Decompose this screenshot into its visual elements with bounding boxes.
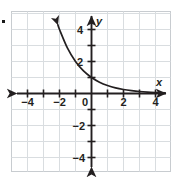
x-tick-label-4: 4 [152, 96, 159, 108]
x-axis-label: x [155, 76, 163, 88]
x-tick-label-0: 0 [82, 96, 88, 108]
y-tick-label-neg2: −2 [72, 120, 85, 132]
y-tick-label-4: 4 [77, 24, 84, 36]
y-axis-label: y [95, 15, 103, 27]
coordinate-plane-chart: −4 −2 0 2 4 4 2 −2 −4 x y [0, 0, 175, 177]
x-tick-label-2: 2 [120, 96, 126, 108]
x-tick-label-neg2: −2 [53, 96, 66, 108]
y-tick-label-2: 2 [77, 56, 83, 68]
coordinate-grid-figure: −4 −2 0 2 4 4 2 −2 −4 x y [0, 0, 175, 177]
x-tick-label-neg4: −4 [21, 96, 34, 108]
y-tick-label-neg4: −4 [72, 152, 85, 164]
